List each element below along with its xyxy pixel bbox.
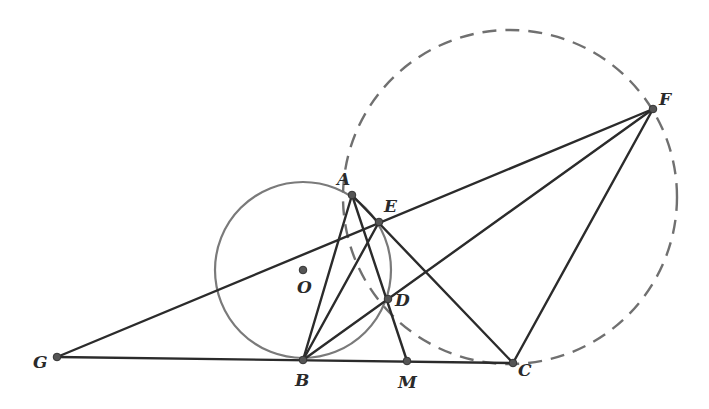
point-d — [384, 295, 392, 303]
segment-FC — [513, 109, 653, 363]
segment-BF — [303, 109, 653, 360]
point-c — [509, 359, 517, 367]
label-b: B — [294, 370, 309, 390]
point-labels: ABCDEFGMO — [33, 89, 673, 392]
segment-GC — [57, 357, 513, 363]
segment-GF — [57, 109, 653, 357]
label-f: F — [658, 89, 673, 109]
geometry-figure: ABCDEFGMO — [0, 0, 709, 409]
label-m: M — [397, 372, 418, 392]
label-o: O — [297, 277, 312, 297]
point-o — [299, 266, 307, 274]
point-a — [348, 191, 356, 199]
point-f — [649, 105, 657, 113]
label-a: A — [335, 169, 350, 189]
label-d: D — [394, 290, 410, 310]
point-e — [375, 218, 383, 226]
label-g: G — [33, 352, 48, 372]
line-segments — [57, 109, 653, 363]
point-g — [53, 353, 61, 361]
segment-BE — [303, 222, 379, 360]
circles — [215, 30, 677, 364]
point-m — [403, 357, 411, 365]
point-b — [299, 356, 307, 364]
label-e: E — [383, 196, 398, 216]
label-c: C — [518, 360, 532, 380]
